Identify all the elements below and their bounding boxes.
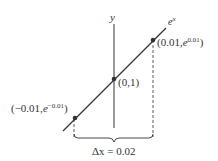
y-axis-label: y xyxy=(109,11,115,23)
point-right xyxy=(151,38,156,43)
point-center xyxy=(112,77,117,82)
interval-label: Δx = 0.02 xyxy=(92,145,136,157)
label-center: (0,1) xyxy=(118,76,139,89)
curve-label: ex xyxy=(168,15,176,27)
label-left: (−0.01,e−0.01) xyxy=(11,102,68,115)
label-right: (0.01,e0.01) xyxy=(157,36,204,49)
interval-brace xyxy=(74,134,153,142)
point-left xyxy=(73,116,78,121)
exp-linearization-diagram: y ex (0.01,e0.01) (0,1) (−0.01,e−0.01) Δ… xyxy=(0,0,218,161)
